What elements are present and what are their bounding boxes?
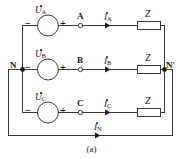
node-label-n: N [10,61,17,70]
current-label-b: IB [104,57,111,67]
source-symbol-c [38,102,59,123]
terminal-dot-b [78,67,82,71]
polarity-plus-a: + [60,19,66,29]
current-arrow-b [105,67,111,73]
source-label-c: UC [35,93,46,103]
impedance-symbol-b [138,66,161,74]
polarity-plus-b: + [60,63,66,73]
current-arrow-c [105,110,111,116]
terminal-dot-c [78,110,82,114]
current-label-n: IN [94,123,102,133]
current-arrows [95,23,111,139]
current-arrow-a [105,23,111,29]
polarity-minus-a: − [25,19,31,29]
impedance-label-a: Z [145,9,151,19]
phasor-dot-c [40,92,42,94]
terminal-label-c: C [77,99,84,108]
circuit-diagram-figure: UA UB UC − + − + − + A B C N N′ IA IB IC… [0,0,183,159]
figure-caption: (a) [0,144,183,154]
phasor-dot-current-n [96,122,98,124]
polarity-minus-c: − [25,106,31,116]
phasor-dot-a [40,5,42,7]
source-label-b: UB [35,50,46,60]
current-label-c: IC [104,100,111,110]
phasor-dot-current-a [106,12,108,14]
source-symbol-b [38,59,59,80]
source-symbol-a [38,15,59,36]
node-label-n-prime: N′ [166,61,175,70]
current-arrow-n [95,133,101,139]
impedance-label-b: Z [145,53,151,63]
polarity-plus-c: + [60,106,66,116]
source-label-a: UA [35,6,46,16]
current-label-a: IA [104,13,112,23]
impedance-label-c: Z [145,96,151,106]
terminal-dot-a [78,23,82,27]
terminal-label-b: B [77,56,83,65]
terminal-label-a: A [77,12,84,21]
impedance-symbol-c [138,109,161,117]
polarity-minus-b: − [25,63,31,73]
phasor-dot-b [40,49,42,51]
impedance-symbol-a [138,22,161,30]
phasor-dot-current-b [106,56,108,58]
phasor-dot-current-c [106,99,108,101]
